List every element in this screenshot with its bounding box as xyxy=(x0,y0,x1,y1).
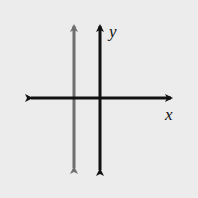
coordinate-plane: y x xyxy=(0,0,198,198)
x-axis-label: x xyxy=(164,105,173,124)
y-axis-label: y xyxy=(107,22,117,41)
